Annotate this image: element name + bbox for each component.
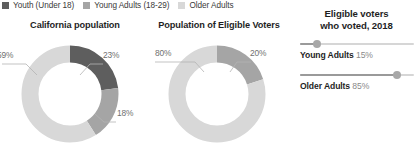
- turnout-caption-older-adults: Older Adults 85%: [296, 81, 417, 91]
- legend-label-young-adults: Young Adults (18-29): [94, 1, 169, 10]
- donut-label-young-adults-pct: 18%: [117, 108, 133, 118]
- chart-eligible-voters-population: Population of Eligible Voters 20% 80%: [143, 20, 295, 144]
- legend-item-older-adults: Older Adults: [178, 1, 233, 10]
- slider-knob[interactable]: [393, 71, 401, 79]
- turnout-name-older-adults: Older Adults: [300, 81, 350, 91]
- legend-label-older-adults: Older Adults: [189, 1, 233, 10]
- panel-voter-turnout: Eligible voters who voted, 2018 Young Ad…: [296, 8, 417, 91]
- turnout-slider-older-adults[interactable]: [300, 71, 414, 80]
- panel-title-line1: Eligible voters: [296, 8, 417, 20]
- panel-title-line2: who voted, 2018: [296, 20, 417, 32]
- turnout-name-young-adults: Young Adults: [300, 50, 354, 60]
- chart-title-eligible: Population of Eligible Voters: [143, 20, 295, 30]
- panel-title-voter-turnout: Eligible voters who voted, 2018: [296, 8, 417, 31]
- turnout-caption-young-adults: Young Adults 15%: [296, 50, 417, 60]
- legend-label-youth: Youth (Under 18): [13, 1, 74, 10]
- legend-item-youth: Youth (Under 18): [2, 1, 74, 10]
- chart-california-population: California population 23% 18% 59%: [0, 20, 150, 144]
- donut-label-older-adults-pct: 59%: [0, 50, 13, 60]
- legend-swatch-young-adults: [83, 2, 90, 9]
- chart-legend: Youth (Under 18) Young Adults (18-29) Ol…: [2, 1, 233, 10]
- donut-label-young-adults-pct: 20%: [250, 48, 266, 58]
- donut-california: 23% 18% 59%: [0, 32, 150, 144]
- turnout-value-young-adults: 15%: [356, 50, 373, 60]
- legend-swatch-youth: [2, 2, 9, 9]
- turnout-row-young-adults: Young Adults 15%: [296, 40, 417, 60]
- donut-label-older-adults-pct: 80%: [155, 48, 171, 58]
- turnout-row-older-adults: Older Adults 85%: [296, 71, 417, 91]
- slider-knob[interactable]: [313, 40, 321, 48]
- legend-swatch-older-adults: [178, 2, 185, 9]
- legend-item-young-adults: Young Adults (18-29): [83, 1, 169, 10]
- turnout-slider-young-adults[interactable]: [300, 40, 414, 49]
- slider-fill: [300, 74, 397, 76]
- donut-california-svg: [0, 32, 150, 144]
- donut-label-youth-pct: 23%: [103, 50, 119, 60]
- chart-title-california: California population: [0, 20, 150, 30]
- turnout-value-older-adults: 85%: [352, 81, 369, 91]
- donut-eligible: 20% 80%: [143, 32, 293, 144]
